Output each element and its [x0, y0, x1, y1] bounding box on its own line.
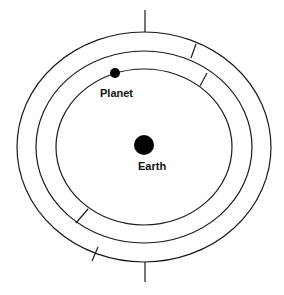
planet-dot	[110, 68, 120, 78]
earth-dot	[134, 135, 154, 155]
earth-label: Earth	[138, 160, 166, 172]
orbit-diagram: Planet Earth	[0, 0, 284, 295]
planet-label: Planet	[100, 87, 133, 99]
